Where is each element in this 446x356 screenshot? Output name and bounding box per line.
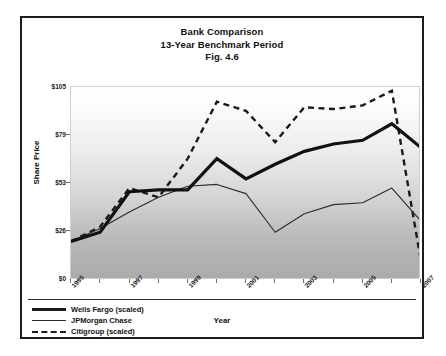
title-line-1: Bank Comparison	[22, 26, 422, 39]
legend-swatch-thick-solid	[32, 304, 66, 315]
y-tick-label-79: $79	[55, 131, 66, 138]
legend-item-wells-fargo: Wells Fargo (scaled)	[32, 304, 144, 315]
y-axis: Share Price $105 $79 $53 $26 $0	[22, 18, 66, 341]
series-line-wells-fargo	[71, 124, 420, 242]
legend-separator	[28, 299, 416, 300]
legend-label-citigroup: Citigroup (scaled)	[71, 327, 135, 336]
y-tick-label-26: $26	[55, 227, 66, 234]
x-tick-mark	[274, 279, 275, 283]
series-line-citigroup	[71, 91, 420, 262]
title-line-2: 13-Year Benchmark Period	[22, 39, 422, 52]
series-canvas	[71, 87, 420, 279]
series-line-jpmorgan	[71, 184, 420, 241]
x-tick-mark	[99, 279, 100, 283]
legend: Wells Fargo (scaled) JPMorgan Chase Citi…	[32, 304, 144, 337]
title-line-3: Fig. 4.6	[22, 51, 422, 64]
x-tick-mark	[158, 279, 159, 283]
legend-label-jpmorgan: JPMorgan Chase	[71, 316, 132, 325]
y-tick-label-53: $53	[55, 179, 66, 186]
legend-swatch-thin-solid	[32, 315, 66, 326]
y-tick-label-105: $105	[52, 83, 66, 90]
legend-item-jpmorgan: JPMorgan Chase	[32, 315, 144, 326]
legend-label-wells-fargo: Wells Fargo (scaled)	[71, 305, 144, 314]
x-tick-mark	[333, 279, 334, 283]
x-tick-mark	[216, 279, 217, 283]
legend-swatch-dashed	[32, 326, 66, 337]
legend-item-citigroup: Citigroup (scaled)	[32, 326, 144, 337]
y-tick-label-0: $0	[59, 275, 66, 282]
plot-area	[70, 86, 420, 279]
chart-title: Bank Comparison 13-Year Benchmark Period…	[22, 26, 422, 64]
figure-frame: Bank Comparison 13-Year Benchmark Period…	[20, 16, 424, 339]
x-tick-mark	[391, 279, 392, 283]
x-tick-label-2007: 2007	[420, 274, 435, 289]
y-axis-title: Share Price	[32, 123, 41, 203]
